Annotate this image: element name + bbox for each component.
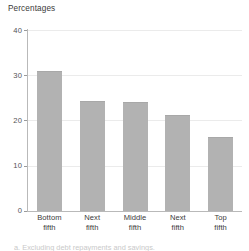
x-label-line2: fifth bbox=[28, 223, 71, 233]
x-label-line1: Next bbox=[71, 213, 114, 223]
bar-middle-fifth bbox=[123, 102, 148, 211]
x-label-next-fifth-upper: Next fifth bbox=[156, 213, 199, 232]
bar-bottom-fifth bbox=[37, 71, 62, 211]
plot-area bbox=[28, 30, 242, 211]
y-tick-label-20: 20 bbox=[0, 116, 22, 125]
bar-top-fifth bbox=[208, 137, 233, 211]
gridline-40 bbox=[28, 30, 242, 31]
y-axis-labels: 40 30 20 10 0 bbox=[0, 0, 22, 251]
x-label-line1: Bottom bbox=[28, 213, 71, 223]
x-label-line1: Top bbox=[199, 213, 242, 223]
x-label-middle-fifth: Middle fifth bbox=[114, 213, 157, 232]
x-label-line2: fifth bbox=[156, 223, 199, 233]
x-axis-labels: Bottom fifth Next fifth Middle fifth Nex… bbox=[28, 213, 242, 239]
x-label-line1: Next bbox=[156, 213, 199, 223]
bar-next-fifth-upper bbox=[165, 115, 190, 211]
chart-footnote: a. Excluding debt repayments and savings… bbox=[14, 243, 236, 251]
y-tick-label-40: 40 bbox=[0, 26, 22, 35]
x-label-line2: fifth bbox=[114, 223, 157, 233]
y-tick-label-10: 10 bbox=[0, 161, 22, 170]
bar-next-fifth-lower bbox=[80, 101, 105, 211]
x-label-top-fifth: Top fifth bbox=[199, 213, 242, 232]
x-label-line2: fifth bbox=[199, 223, 242, 233]
x-label-line2: fifth bbox=[71, 223, 114, 233]
y-tick-label-0: 0 bbox=[0, 206, 22, 215]
x-label-line1: Middle bbox=[114, 213, 157, 223]
x-label-next-fifth-lower: Next fifth bbox=[71, 213, 114, 232]
axis-baseline bbox=[28, 211, 242, 212]
bar-chart-figure: Percentages 40 30 20 10 0 Bottom fifth N… bbox=[0, 0, 249, 251]
x-label-bottom-fifth: Bottom fifth bbox=[28, 213, 71, 232]
y-tick-label-30: 30 bbox=[0, 71, 22, 80]
